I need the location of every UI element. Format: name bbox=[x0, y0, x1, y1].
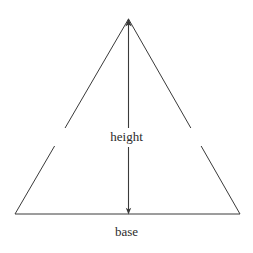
diagram-svg bbox=[0, 0, 253, 253]
height-label: height bbox=[0, 128, 253, 146]
base-label: base bbox=[0, 225, 253, 238]
height-label-text: height bbox=[104, 129, 149, 144]
base-label-text: base bbox=[106, 224, 147, 239]
triangle-shape bbox=[15, 19, 240, 214]
triangle-diagram-canvas: height base bbox=[0, 0, 253, 253]
